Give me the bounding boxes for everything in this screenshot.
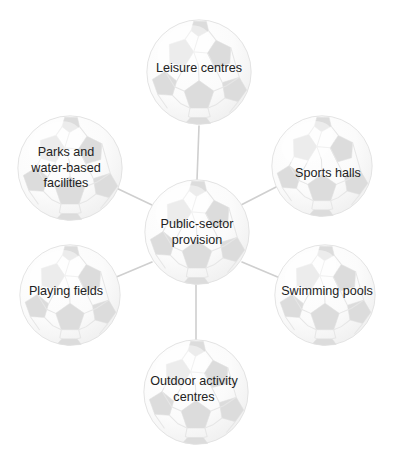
diagram-canvas: Leisure centresSports hallsSwimming pool…: [0, 0, 393, 463]
football-icon-parks-and-water-based-facilities[interactable]: [18, 112, 122, 220]
football-icon-swimming-pools[interactable]: [275, 241, 375, 345]
center-to-sports-halls: [241, 185, 280, 205]
center-to-playing-fields: [114, 262, 152, 278]
center-to-swimming-pools: [242, 262, 280, 278]
node-circles: [18, 16, 375, 444]
football-icon-leisure-centres[interactable]: [147, 16, 251, 124]
football-icon-playing-fields[interactable]: [20, 241, 120, 345]
football-icon-sports-halls[interactable]: [272, 112, 372, 216]
football-icon-outdoor-activity-centres[interactable]: [144, 336, 248, 444]
diagram-svg: [0, 0, 393, 463]
center-to-leisure-centres: [197, 126, 199, 180]
football-icon-public-sector-provision[interactable]: [145, 176, 249, 284]
